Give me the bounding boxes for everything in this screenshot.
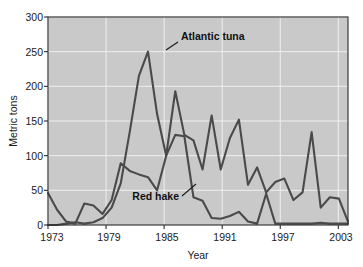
y-axis-title: Metric tons [7,95,19,146]
series-label-red-hake: Red hake [132,190,179,202]
x-tick-label-1985: 1985 [155,231,179,243]
y-tick-label-150: 150 [25,115,43,127]
y-tick-label-50: 50 [31,184,43,196]
chart-canvas: 300 250 200 150 100 50 0 1973 1979 1985 … [0,0,363,267]
x-tick-label-1973: 1973 [40,231,64,243]
y-tick-label-250: 250 [25,46,43,58]
line-chart: 300 250 200 150 100 50 0 1973 1979 1985 … [0,0,363,267]
x-axis-title: Year [187,249,209,261]
x-tick-label-1979: 1979 [97,231,121,243]
x-tick-label-2003: 2003 [329,231,353,243]
y-tick-label-100: 100 [25,150,43,162]
series-label-atlantic-tuna: Atlantic tuna [181,30,245,42]
x-tick-label-1991: 1991 [213,231,237,243]
y-tick-label-300: 300 [25,11,43,23]
y-tick-label-0: 0 [37,219,43,231]
x-tick-label-1997: 1997 [271,231,295,243]
y-tick-label-200: 200 [25,80,43,92]
